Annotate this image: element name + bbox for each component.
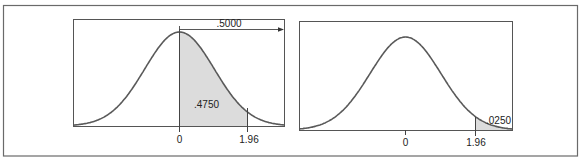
left-arrow-head-icon [278, 27, 284, 31]
left-tick-zero: 0 [177, 134, 183, 145]
outer-frame [4, 6, 578, 157]
right-shaded-label: .0250 [486, 115, 511, 126]
left-panel: .5000 .4750 0 1.96 [74, 18, 285, 145]
right-tick-zero: 0 [403, 137, 409, 148]
normal-distribution-figure: .5000 .4750 0 1.96 .0250 0 1.96 [0, 0, 585, 165]
right-tick-z: 1.96 [466, 137, 486, 148]
right-panel: .0250 0 1.96 [300, 22, 513, 149]
left-tick-z: 1.96 [239, 134, 259, 145]
left-shaded-area [180, 32, 248, 126]
left-arrow-label: .5000 [216, 18, 241, 29]
right-normal-curve [300, 37, 512, 129]
right-panel-frame [300, 22, 513, 131]
left-shaded-label: .4750 [194, 99, 219, 110]
